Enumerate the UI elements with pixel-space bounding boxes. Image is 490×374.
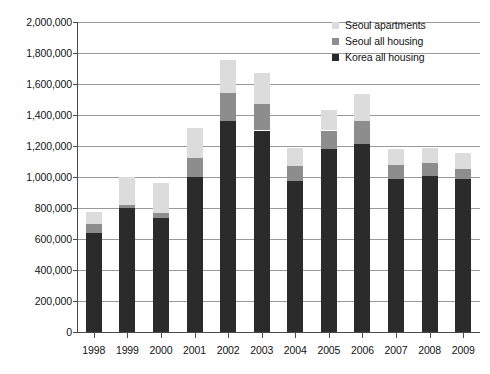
gridline	[77, 84, 480, 85]
stacked-bar-chart: 2,000,0001,800,0001,600,0001,400,0001,20…	[0, 0, 490, 374]
bar-group[interactable]	[354, 22, 370, 332]
y-tick-label: 1,200,000	[0, 141, 72, 152]
legend-swatch-icon	[332, 22, 339, 29]
y-tick-mark	[73, 177, 78, 178]
bar-group[interactable]	[287, 22, 303, 332]
y-tick-mark	[73, 84, 78, 85]
legend-item-label: Seoul apartments	[345, 20, 426, 31]
gridline	[77, 239, 480, 240]
bar-segment[interactable]	[220, 93, 236, 121]
y-tick-mark	[73, 270, 78, 271]
y-tick-label: 200,000	[0, 296, 72, 307]
y-tick-mark	[73, 115, 78, 116]
bar-segment[interactable]	[354, 121, 370, 143]
chart-legend: Seoul apartmentsSeoul all housingKorea a…	[332, 17, 482, 65]
bar-segment[interactable]	[287, 166, 303, 181]
bar-segment[interactable]	[86, 233, 102, 332]
bar-segment[interactable]	[187, 158, 203, 177]
bar-segment[interactable]	[119, 208, 135, 332]
bar-segment[interactable]	[388, 179, 404, 332]
bar-segment[interactable]	[287, 181, 303, 332]
bar-segment[interactable]	[422, 148, 438, 163]
bar-segment[interactable]	[187, 177, 203, 332]
bar-segment[interactable]	[220, 60, 236, 93]
bar-group[interactable]	[422, 22, 438, 332]
bar-segment[interactable]	[86, 212, 102, 224]
gridline	[77, 301, 480, 302]
y-tick-mark	[73, 239, 78, 240]
bar-segment[interactable]	[153, 218, 169, 332]
y-tick-mark	[73, 332, 78, 333]
bar-segment[interactable]	[321, 149, 337, 332]
bar-segment[interactable]	[119, 177, 135, 205]
gridline	[77, 270, 480, 271]
bar-group[interactable]	[220, 22, 236, 332]
y-tick-label: 1,800,000	[0, 48, 72, 59]
plot-area	[77, 22, 480, 332]
x-tick-mark	[228, 333, 229, 338]
bar-segment[interactable]	[422, 176, 438, 332]
gridline	[77, 115, 480, 116]
x-tick-mark	[262, 333, 263, 338]
bar-segment[interactable]	[321, 131, 337, 150]
bar-group[interactable]	[388, 22, 404, 332]
bar-segment[interactable]	[321, 110, 337, 131]
bar-segment[interactable]	[153, 213, 169, 218]
y-tick-label: 600,000	[0, 234, 72, 245]
y-tick-label: 2,000,000	[0, 17, 72, 28]
bar-group[interactable]	[86, 22, 102, 332]
x-tick-mark	[329, 333, 330, 338]
bar-segment[interactable]	[187, 128, 203, 158]
legend-swatch-icon	[332, 54, 339, 61]
bar-segment[interactable]	[86, 224, 102, 233]
y-tick-label: 0	[0, 327, 72, 338]
bar-segment[interactable]	[422, 163, 438, 176]
y-tick-label: 400,000	[0, 265, 72, 276]
y-tick-label: 800,000	[0, 203, 72, 214]
y-tick-mark	[73, 208, 78, 209]
y-tick-label: 1,000,000	[0, 172, 72, 183]
legend-item-label: Seoul all housing	[345, 36, 423, 47]
legend-item[interactable]: Seoul apartments	[332, 17, 482, 33]
gridline	[77, 177, 480, 178]
bar-segment[interactable]	[220, 121, 236, 332]
x-tick-mark	[295, 333, 296, 338]
bar-segment[interactable]	[254, 73, 270, 104]
bar-segment[interactable]	[388, 149, 404, 165]
bar-segment[interactable]	[254, 131, 270, 333]
y-axis-labels: 2,000,0001,800,0001,600,0001,400,0001,20…	[0, 0, 72, 374]
legend-item[interactable]: Seoul all housing	[332, 33, 482, 49]
gridline	[77, 146, 480, 147]
bar-group[interactable]	[119, 22, 135, 332]
y-tick-label: 1,600,000	[0, 79, 72, 90]
x-tick-mark	[463, 333, 464, 338]
legend-item[interactable]: Korea all housing	[332, 49, 482, 65]
bar-segment[interactable]	[455, 179, 471, 332]
y-tick-mark	[73, 301, 78, 302]
bar-group[interactable]	[187, 22, 203, 332]
bar-segment[interactable]	[388, 165, 404, 179]
y-tick-mark	[73, 146, 78, 147]
x-tick-mark	[94, 333, 95, 338]
bar-segment[interactable]	[455, 153, 471, 169]
bar-segment[interactable]	[354, 144, 370, 332]
y-tick-mark	[73, 53, 78, 54]
legend-item-label: Korea all housing	[345, 52, 424, 63]
bar-segment[interactable]	[254, 104, 270, 130]
x-tick-mark	[430, 333, 431, 338]
bar-segment[interactable]	[153, 183, 169, 212]
bar-group[interactable]	[153, 22, 169, 332]
bar-segment[interactable]	[354, 94, 370, 121]
legend-swatch-icon	[332, 38, 339, 45]
x-tick-mark	[362, 333, 363, 338]
bar-group[interactable]	[321, 22, 337, 332]
bar-segment[interactable]	[119, 205, 135, 208]
x-tick-mark	[195, 333, 196, 338]
y-tick-label: 1,400,000	[0, 110, 72, 121]
bar-segment[interactable]	[455, 169, 471, 179]
bar-group[interactable]	[254, 22, 270, 332]
x-tick-mark	[161, 333, 162, 338]
bar-segment[interactable]	[287, 148, 303, 167]
bar-group[interactable]	[455, 22, 471, 332]
gridline	[77, 208, 480, 209]
